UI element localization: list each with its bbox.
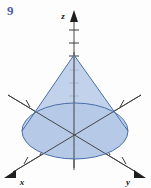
z-axis-arrowhead <box>70 10 78 22</box>
y-axis-arrowhead <box>134 170 146 178</box>
figure-container: 9 <box>0 0 151 188</box>
cone-diagram: z x y <box>0 0 151 188</box>
y-axis-label: y <box>125 177 131 187</box>
y-tick <box>122 157 126 164</box>
axes-over-solid-layer <box>8 52 141 172</box>
x-axis-label: x <box>19 177 25 187</box>
z-axis-label: z <box>60 11 65 21</box>
